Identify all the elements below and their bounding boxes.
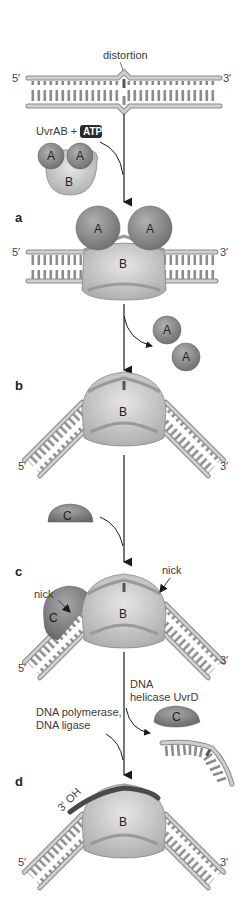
protein-c-label: C — [49, 611, 58, 625]
end-5prime: 5′ — [12, 72, 20, 84]
step-a-letter: a — [15, 210, 23, 225]
incoming-c-protein: C — [48, 504, 93, 523]
end-5prime: 5′ — [18, 662, 26, 674]
helicase-label: helicase UvrD — [130, 691, 199, 703]
distortion-label: distortion — [103, 49, 148, 61]
step-d-complex: B 3′ OH 5′ 3′ — [18, 784, 228, 888]
protein-a-label: A — [76, 149, 84, 163]
released-c-protein: C — [154, 706, 200, 727]
release-arrow — [124, 316, 152, 346]
step-c-letter: c — [15, 564, 22, 579]
helicase-label: DNA — [130, 678, 154, 690]
protein-b-label: B — [119, 405, 127, 419]
top-dna: distortion 5′ 3′ — [12, 49, 231, 112]
uvrabc-repair-diagram: distortion 5′ 3′ UvrAB + ATP A A B a — [0, 0, 248, 921]
nick-label-left: nick — [34, 588, 54, 600]
end-3prime: 3′ — [220, 856, 228, 868]
protein-a-label: A — [47, 149, 55, 163]
protein-a-label: A — [146, 222, 154, 236]
protein-b-label: B — [119, 257, 127, 271]
end-5prime: 5′ — [18, 856, 26, 868]
atp-badge-text: ATP — [83, 126, 103, 137]
release-arrow — [126, 708, 150, 733]
uvrab-complex: A A B — [38, 143, 98, 195]
merge-arrow — [100, 142, 123, 175]
step-b-letter: b — [15, 378, 23, 393]
protein-c-label: C — [172, 710, 181, 724]
end-5prime: 5′ — [12, 246, 20, 258]
reagent-label: UvrAB + — [36, 125, 77, 137]
protein-c-label: C — [63, 509, 72, 523]
three-prime-oh-label: 3′ OH — [55, 785, 83, 813]
protein-a-label: A — [182, 350, 190, 364]
ligase-label: DNA ligase — [36, 719, 90, 731]
protein-b-label: B — [119, 607, 127, 621]
polymerase-label: DNA polymerase, — [36, 706, 122, 718]
protein-b-label: B — [65, 175, 73, 189]
end-3prime: 3′ — [220, 460, 228, 472]
merge-arrow — [100, 517, 123, 546]
excised-oligonucleotide — [162, 742, 232, 784]
protein-a-label: A — [94, 222, 102, 236]
end-3prime: 3′ — [223, 72, 231, 84]
released-a-proteins: A A — [153, 316, 200, 371]
step-d-letter: d — [15, 774, 23, 789]
step-b-complex: B 5′ 3′ — [18, 372, 228, 476]
step-c-complex: C B nick nick 5′ 3′ — [18, 564, 228, 678]
end-5prime: 5′ — [18, 460, 26, 472]
step-a-complex: A A B 5′ 3′ — [12, 206, 228, 300]
protein-a-label: A — [163, 323, 171, 337]
merge-arrow — [106, 734, 123, 760]
end-3prime: 3′ — [220, 654, 228, 666]
nick-label-right: nick — [162, 564, 182, 576]
protein-b-label: B — [119, 815, 127, 829]
end-3prime: 3′ — [220, 246, 228, 258]
